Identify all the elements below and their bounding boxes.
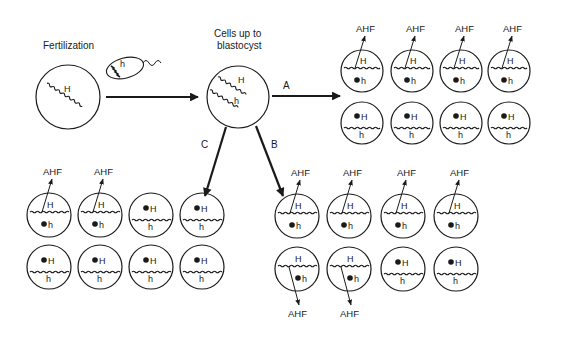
barr-body-dot <box>289 222 295 228</box>
cell: hH <box>180 193 224 237</box>
fertilization-label: Fertilization <box>43 40 94 51</box>
active-allele-label: h <box>458 130 463 140</box>
cell: hH <box>440 102 482 144</box>
active-x-chromosome <box>394 67 430 69</box>
barr-body-dot <box>453 77 459 83</box>
inactive-allele-label: h <box>402 221 407 231</box>
active-x-chromosome <box>278 265 317 267</box>
barr-body-dot <box>448 222 454 228</box>
barr-body-dot <box>143 257 149 263</box>
active-x-chromosome <box>330 265 369 267</box>
active-x-chromosome <box>30 211 69 213</box>
active-allele-label: h <box>409 130 414 140</box>
branch-C-cells: HhAHFHhAHFhHhHhHhHhHhH <box>27 166 224 289</box>
active-x-chromosome <box>30 271 69 273</box>
active-x-chromosome <box>437 212 476 214</box>
branch-A-cells: HhAHFHhAHFHhAHFHhAHFhHhHhHhH <box>341 23 530 144</box>
cell: HhAHF <box>440 23 482 92</box>
ahf-label: AHF <box>43 166 62 177</box>
inactive-allele-label: H <box>402 258 409 268</box>
active-x-chromosome <box>132 271 171 273</box>
cell: HhAHF <box>327 247 371 319</box>
inactive-allele-label: H <box>150 204 157 214</box>
active-x-chromosome <box>491 127 527 129</box>
egg-allele-label: H <box>64 84 71 94</box>
barr-body-dot <box>143 205 149 211</box>
active-x-chromosome <box>491 67 527 69</box>
branch-label-C: C <box>201 139 208 150</box>
barr-body-dot <box>92 257 98 263</box>
active-x-chromosome <box>81 271 120 273</box>
active-x-chromosome <box>183 271 222 273</box>
barr-body-dot <box>341 222 347 228</box>
ahf-label: AHF <box>450 167 469 178</box>
fertilization-stage: Fertilization H h <box>36 40 198 129</box>
cell: hH <box>381 247 425 291</box>
cell: hH <box>341 102 383 144</box>
ahf-label: AHF <box>340 308 359 319</box>
ahf-arrow <box>341 267 351 305</box>
cell: HhAHF <box>327 167 371 238</box>
active-allele-label: H <box>47 200 54 210</box>
ahf-arrow <box>289 267 299 305</box>
active-x-chromosome <box>384 273 423 275</box>
active-allele-label: H <box>410 56 417 66</box>
barr-body-dot <box>404 77 410 83</box>
cell: HhAHF <box>391 23 433 92</box>
active-allele-label: h <box>506 130 511 140</box>
barr-body-dot <box>194 205 200 211</box>
cell: HhAHF <box>78 166 122 237</box>
cell: HhAHF <box>275 167 319 238</box>
active-x-chromosome <box>344 127 380 129</box>
ahf-label: AHF <box>503 23 522 34</box>
inactive-allele-label: h <box>411 76 416 86</box>
ahf-label: AHF <box>406 23 425 34</box>
ahf-label: AHF <box>288 308 307 319</box>
active-allele-label: H <box>360 56 367 66</box>
cell: hH <box>27 245 71 289</box>
cell: HhAHF <box>27 166 71 237</box>
active-allele-label: h <box>199 222 204 232</box>
active-allele-label: h <box>148 222 153 232</box>
active-x-chromosome <box>344 67 380 69</box>
arrow-C <box>205 127 226 196</box>
cell: HhAHF <box>341 23 383 92</box>
inactive-allele-label: h <box>508 76 513 86</box>
cell: hH <box>434 247 478 291</box>
inactive-allele-label: h <box>361 76 366 86</box>
arrow-B <box>256 126 283 196</box>
egg-cell <box>36 65 100 129</box>
barr-body-dot <box>41 257 47 263</box>
sperm-allele-label: h <box>120 59 125 69</box>
active-allele-label: H <box>507 56 514 66</box>
active-allele-label: h <box>97 274 102 284</box>
inactive-allele-label: H <box>460 112 467 122</box>
active-allele-label: h <box>359 130 364 140</box>
active-allele-label: H <box>295 254 302 264</box>
cell: hH <box>180 245 224 289</box>
ahf-label: AHF <box>397 167 416 178</box>
inactive-allele-label: H <box>508 112 515 122</box>
blastocyst-allele-h: h <box>234 96 239 106</box>
inactive-allele-label: H <box>201 256 208 266</box>
barr-body-dot <box>501 77 507 83</box>
sperm-cell: h <box>104 53 161 82</box>
ahf-label: AHF <box>356 23 375 34</box>
active-x-chromosome <box>394 127 430 129</box>
active-x-chromosome <box>132 219 171 221</box>
cell: HhAHF <box>381 167 425 238</box>
active-allele-label: h <box>148 274 153 284</box>
blastocyst-allele-H: H <box>238 75 245 85</box>
barr-body-dot <box>41 221 47 227</box>
inactive-allele-label: H <box>361 112 368 122</box>
active-x-chromosome <box>437 273 476 275</box>
cell: HhAHF <box>275 247 319 319</box>
inactive-allele-label: H <box>411 112 418 122</box>
inactive-allele-label: H <box>201 204 208 214</box>
inactive-allele-label: h <box>460 76 465 86</box>
inactive-allele-label: H <box>99 256 106 266</box>
inactive-allele-label: h <box>302 274 307 284</box>
active-x-chromosome <box>183 219 222 221</box>
barr-body-dot <box>92 221 98 227</box>
barr-body-dot <box>354 77 360 83</box>
